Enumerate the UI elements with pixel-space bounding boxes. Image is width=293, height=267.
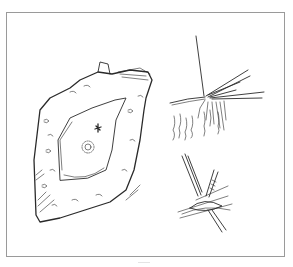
medical-illustration <box>0 0 293 267</box>
tissue-specimen <box>34 62 152 222</box>
needle-insertion-panel <box>170 36 264 140</box>
forceps-closure-panel <box>178 154 232 232</box>
caption-mark <box>138 262 150 263</box>
